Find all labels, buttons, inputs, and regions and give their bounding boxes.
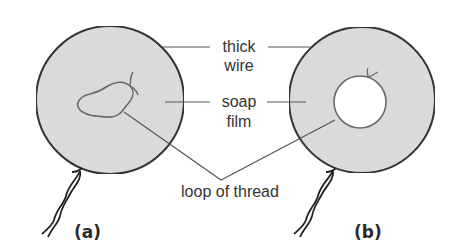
panel-b: (b) xyxy=(289,27,435,242)
soap-film-diagram: (a) (b) thick wire soap xyxy=(0,0,454,246)
twisted-handle-b xyxy=(294,168,336,237)
thread-loop-b xyxy=(334,76,386,128)
label-wire: wire xyxy=(223,57,253,74)
caption-b: (b) xyxy=(354,222,382,242)
caption-a: (a) xyxy=(74,222,101,242)
panel-a: (a) xyxy=(36,26,184,242)
diagram-canvas: (a) (b) thick wire soap xyxy=(0,0,454,246)
label-film: film xyxy=(227,113,252,130)
label-soap: soap xyxy=(222,93,257,110)
label-thick: thick xyxy=(223,38,257,55)
label-loop-of-thread: loop of thread xyxy=(181,183,279,200)
wire-ring-a xyxy=(36,26,184,174)
